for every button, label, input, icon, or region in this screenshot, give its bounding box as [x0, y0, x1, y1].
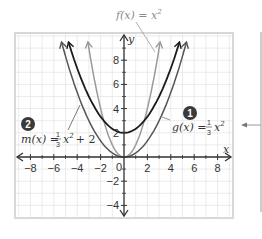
y-axis-label: y: [127, 33, 135, 46]
y-tick-label: 6: [113, 78, 119, 90]
y-tick-label: 8: [113, 54, 119, 66]
x-tick-label: 8: [215, 162, 221, 174]
side-panel-fragment: [241, 32, 261, 212]
f-label: f(x) = x: [115, 9, 158, 22]
x-tick-label: −4: [71, 162, 84, 174]
graph-figure: yx−8−6−4−224688642−2−40 f(x) = x2 1 g(x)…: [0, 0, 262, 239]
x-tick-label: 6: [191, 162, 197, 174]
origin-label: 0: [116, 161, 122, 173]
arrow-left-icon: [241, 123, 247, 128]
svg-text:1: 1: [56, 131, 60, 138]
y-tick-label: −2: [106, 175, 119, 187]
svg-text:3: 3: [56, 141, 60, 148]
svg-text:2: 2: [25, 119, 31, 130]
x-tick-label: 2: [144, 162, 150, 174]
y-tick-label: −4: [106, 199, 119, 211]
x-tick-label: −8: [24, 162, 37, 174]
coordinate-plane: yx−8−6−4−224688642−2−40 f(x) = x2 1 g(x)…: [0, 0, 262, 239]
label-g: 1 g(x) = 1 3 x2: [162, 106, 225, 136]
x-axis-label: x: [223, 143, 230, 156]
svg-text:3: 3: [207, 129, 211, 136]
svg-text:x2+ 2: x2+ 2: [63, 132, 95, 146]
g-label-prefix: g(x) =: [172, 121, 207, 134]
leader-line-f: [136, 22, 155, 52]
x-tick-label: 4: [168, 162, 174, 174]
svg-text:1: 1: [187, 108, 193, 119]
x-tick-label: −6: [48, 162, 61, 174]
m-label-prefix: m(x) =: [21, 133, 59, 146]
y-tick-label: 2: [113, 127, 119, 139]
y-tick-label: 4: [113, 103, 119, 115]
svg-text:f(x) = x2: f(x) = x2: [115, 8, 162, 22]
svg-text:x2: x2: [214, 120, 225, 134]
x-tick-label: −2: [94, 162, 107, 174]
svg-text:1: 1: [207, 119, 211, 126]
leader-line-g: [162, 117, 170, 120]
label-f: f(x) = x2: [115, 8, 162, 52]
